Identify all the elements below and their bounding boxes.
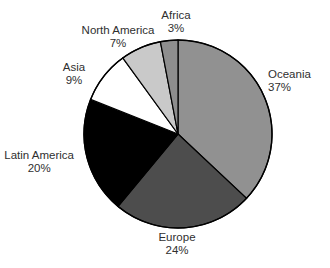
slice-label-europe: Europe 24% <box>158 231 195 257</box>
slice-label-asia-name: Asia <box>63 61 85 73</box>
slice-label-africa-percent: 3% <box>161 22 190 35</box>
slice-label-north-america-name: North America <box>82 24 155 36</box>
pie-chart-graphic <box>0 0 330 268</box>
slice-label-north-america: North America 7% <box>82 24 155 50</box>
slice-label-oceania-name: Oceania <box>268 68 311 80</box>
slice-label-africa: Africa 3% <box>161 9 190 35</box>
slice-label-asia-percent: 9% <box>63 74 85 87</box>
slice-label-europe-name: Europe <box>158 231 195 243</box>
pie-chart: Oceania 37% Europe 24% Latin America 20%… <box>0 0 330 268</box>
slice-label-europe-percent: 24% <box>158 244 195 257</box>
slice-label-latin-america-percent: 20% <box>4 162 74 175</box>
slice-label-latin-america-name: Latin America <box>4 149 74 161</box>
slice-label-latin-america: Latin America 20% <box>4 149 74 175</box>
slice-label-oceania-percent: 37% <box>268 81 311 94</box>
slice-label-north-america-percent: 7% <box>82 37 155 50</box>
slice-label-oceania: Oceania 37% <box>268 68 311 94</box>
pie-slices <box>84 40 272 228</box>
slice-label-africa-name: Africa <box>161 9 190 21</box>
slice-label-asia: Asia 9% <box>63 61 85 87</box>
